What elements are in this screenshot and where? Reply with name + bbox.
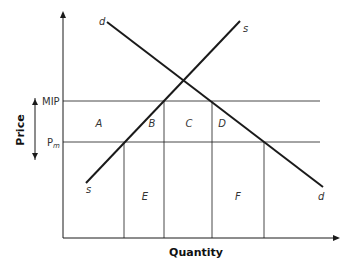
- area-a-label: A: [95, 118, 103, 129]
- supply-label-bottom: s: [86, 184, 91, 195]
- area-e-label: E: [142, 191, 149, 202]
- arrow-up-icon: [32, 99, 38, 105]
- demand-label-top: d: [99, 16, 106, 27]
- supply-label-top: s: [243, 23, 248, 34]
- area-b-label: B: [149, 118, 156, 129]
- arrow-down-icon: [32, 153, 38, 159]
- mip-label: MIP: [42, 96, 60, 107]
- y-axis-label: Price: [14, 114, 27, 145]
- pm-label: Pm: [47, 137, 60, 150]
- area-f-label: F: [235, 191, 241, 202]
- area-c-label: C: [186, 118, 193, 129]
- demand-label-bottom: d: [318, 191, 325, 202]
- area-d-label: D: [218, 118, 226, 129]
- supply-curve: [86, 21, 240, 183]
- mip-diagram: Price Quantity MIP Pm d d s s A B C D E …: [0, 0, 355, 269]
- x-axis-label: Quantity: [169, 246, 223, 259]
